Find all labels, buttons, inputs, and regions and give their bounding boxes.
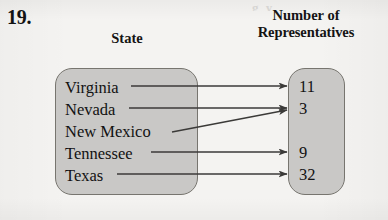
domain-item-texas: Texas xyxy=(65,168,103,185)
mapping-diagram: Virginia Nevada New Mexico Tennessee Tex… xyxy=(0,0,388,220)
range-item-32: 32 xyxy=(299,167,316,184)
range-item-9: 9 xyxy=(299,145,307,162)
arrow-layer xyxy=(0,0,388,220)
arrow-newmexico-to-3 xyxy=(172,110,287,132)
domain-item-new-mexico: New Mexico xyxy=(65,124,151,141)
domain-item-virginia: Virginia xyxy=(65,80,119,97)
range-item-11: 11 xyxy=(299,79,315,96)
range-item-3: 3 xyxy=(299,101,307,118)
domain-item-nevada: Nevada xyxy=(65,102,115,119)
domain-item-tennessee: Tennessee xyxy=(65,146,133,163)
